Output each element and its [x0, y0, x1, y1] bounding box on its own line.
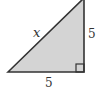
- horizontal-leg-label: 5: [45, 76, 53, 88]
- triangle-diagram: x 5 5: [0, 0, 96, 88]
- triangle-shape: [8, 0, 84, 72]
- hypotenuse-label: x: [33, 25, 41, 40]
- vertical-leg-label: 5: [88, 27, 96, 41]
